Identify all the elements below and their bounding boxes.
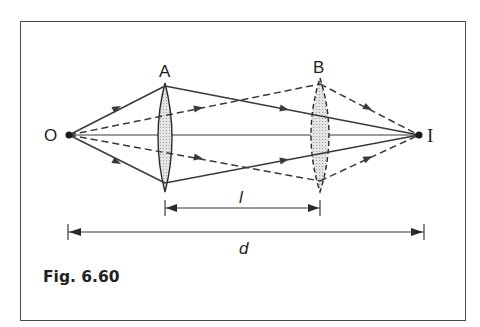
dimension-l-arrow-left: [166, 204, 177, 212]
dimension-l-label: l: [239, 189, 243, 206]
image-label: I: [427, 126, 433, 145]
dashed-rays: [69, 84, 419, 181]
object-point: [66, 132, 73, 139]
dimension-d: [68, 224, 424, 240]
image-point: [416, 132, 423, 139]
figure-caption: Fig. 6.60: [43, 268, 120, 286]
lens-b-label: B: [313, 59, 324, 76]
lens-a-label: A: [159, 63, 170, 80]
lens-b: [311, 78, 329, 192]
object-label: O: [44, 127, 57, 144]
dimension-d-arrow-right: [411, 228, 423, 236]
dimension-d-label: d: [239, 240, 248, 257]
dimension-l-arrow-right: [308, 204, 319, 212]
dimension-d-arrow-left: [69, 228, 81, 236]
lens-a: [158, 83, 172, 192]
